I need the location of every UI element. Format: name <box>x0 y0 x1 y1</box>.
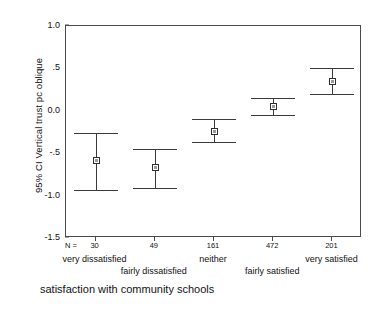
x-category-label: very dissatisfied <box>63 254 127 264</box>
mean-marker-core <box>272 105 275 108</box>
x-category-label: fairly dissatisfied <box>121 266 187 276</box>
x-axis-title: satisfaction with community schools <box>40 283 214 295</box>
sample-size-value: 30 <box>90 241 98 250</box>
error-bar-lower-cap <box>310 94 354 95</box>
sample-size-value: 472 <box>266 241 279 250</box>
sample-size-prefix: N = <box>65 241 77 250</box>
error-bar-lower-cap <box>74 190 118 191</box>
mean-marker-core <box>95 159 98 162</box>
error-bar-chart: 95% CI Vertical trust pc oblique 1.0.50.… <box>0 0 382 309</box>
x-category-label: neither <box>199 254 227 264</box>
error-bar-lower-cap <box>192 142 236 143</box>
mean-marker <box>152 164 159 171</box>
sample-size-value: 161 <box>207 241 220 250</box>
mean-marker-core <box>213 130 216 133</box>
y-tick-label: -1.5 <box>14 232 60 242</box>
mean-marker-core <box>331 80 334 83</box>
y-tick-label: -1.0 <box>14 190 60 200</box>
mean-marker <box>211 128 218 135</box>
mean-marker <box>270 103 277 110</box>
error-bar-lower-cap <box>133 188 177 189</box>
sample-size-value: 49 <box>150 241 158 250</box>
y-tick-label: .5 <box>14 62 60 72</box>
y-tick-label: 1.0 <box>14 20 60 30</box>
y-tick-label: -.5 <box>14 147 60 157</box>
x-category-label: very satisfied <box>305 254 358 264</box>
y-tick-label: 0.0 <box>14 105 60 115</box>
mean-marker <box>93 157 100 164</box>
y-axis-title: 95% CI Vertical trust pc oblique <box>33 16 44 236</box>
plot-area <box>65 25 361 237</box>
mean-marker <box>329 78 336 85</box>
sample-size-value: 201 <box>325 241 338 250</box>
mean-marker-core <box>154 166 157 169</box>
x-category-label: fairly satisfied <box>245 266 300 276</box>
error-bar-lower-cap <box>251 115 295 116</box>
